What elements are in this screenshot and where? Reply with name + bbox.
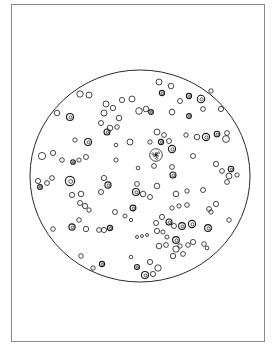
microscope-field-illustration — [0, 0, 279, 362]
cell-nucleus — [200, 98, 203, 101]
cell — [129, 218, 132, 221]
cell — [168, 83, 174, 89]
cell — [129, 96, 135, 102]
cell — [191, 154, 196, 159]
cell — [146, 234, 149, 237]
cell — [78, 201, 83, 206]
cell — [105, 182, 111, 188]
cell-cluster — [35, 79, 239, 279]
cell — [179, 223, 186, 230]
cell — [101, 175, 106, 180]
cell-nucleus — [87, 141, 90, 144]
cell — [218, 106, 223, 111]
cell — [156, 79, 162, 85]
cell — [133, 189, 140, 196]
cell — [101, 227, 106, 232]
cell — [69, 192, 74, 197]
cell — [77, 218, 82, 223]
cell-nucleus — [136, 266, 138, 268]
cell-nucleus — [150, 111, 152, 113]
cell-nucleus — [171, 148, 174, 151]
cell-nucleus — [135, 191, 138, 194]
cell — [165, 235, 169, 239]
cell — [154, 183, 160, 189]
cell — [142, 272, 149, 279]
cell — [226, 173, 232, 179]
cell — [107, 125, 113, 131]
cell — [173, 237, 180, 244]
cell — [161, 230, 165, 234]
cell — [99, 121, 104, 126]
cell — [154, 228, 159, 233]
cell-nucleus — [181, 225, 184, 228]
cell — [201, 107, 206, 112]
cell-nucleus — [161, 92, 163, 94]
cell-nucleus — [39, 186, 41, 188]
cell — [73, 138, 77, 142]
cell — [114, 158, 118, 162]
cell — [101, 110, 107, 116]
cell-granule — [156, 157, 158, 159]
cell — [113, 210, 118, 215]
cell — [186, 243, 191, 248]
cell — [77, 158, 81, 162]
cell — [220, 169, 225, 174]
cell — [130, 205, 136, 211]
cell — [127, 139, 133, 145]
cell — [159, 90, 164, 95]
cell — [159, 214, 164, 219]
cell-granule — [152, 153, 154, 155]
cell — [115, 125, 120, 130]
cell-nucleus — [71, 226, 74, 229]
cell — [213, 201, 218, 206]
cell — [60, 158, 65, 163]
cell — [148, 140, 152, 144]
cell — [83, 226, 88, 231]
cell — [228, 166, 234, 172]
cell — [147, 259, 152, 264]
cell — [38, 152, 45, 159]
cell — [136, 236, 139, 239]
cell — [168, 145, 175, 152]
cell — [67, 114, 74, 121]
cell — [82, 203, 87, 208]
cell-nucleus — [160, 141, 162, 143]
cell — [178, 244, 182, 248]
cell — [141, 235, 144, 238]
cell — [135, 182, 140, 187]
cell-nucleus — [101, 263, 103, 265]
cell-granule — [158, 152, 160, 154]
cell — [205, 246, 209, 250]
cell — [107, 225, 112, 230]
cell — [188, 220, 195, 227]
cell — [184, 133, 188, 137]
cell — [91, 266, 95, 270]
cell — [87, 208, 91, 212]
cell-nucleus — [172, 174, 175, 177]
cell — [167, 139, 172, 144]
cell — [166, 219, 172, 225]
cell — [119, 97, 124, 102]
cell — [223, 136, 230, 143]
cell — [136, 108, 143, 115]
cell-nucleus — [72, 161, 74, 163]
microscope-field-circle — [30, 70, 250, 282]
cell-nucleus — [69, 180, 73, 184]
cell — [110, 105, 115, 110]
cell — [140, 191, 146, 197]
cell — [202, 242, 207, 247]
cell — [177, 204, 181, 208]
cell — [169, 109, 175, 115]
cell — [79, 254, 84, 259]
cell — [170, 253, 175, 258]
cell — [143, 106, 149, 112]
cell — [170, 206, 174, 210]
cell — [65, 176, 74, 185]
cell — [77, 91, 83, 97]
cell — [155, 265, 161, 271]
cell — [190, 239, 195, 244]
cell — [152, 164, 157, 169]
cell — [35, 178, 40, 183]
cell — [170, 165, 175, 170]
cell — [84, 155, 89, 160]
